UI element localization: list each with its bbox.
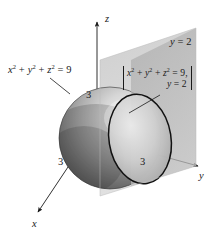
int-plus-2: + [155,67,161,78]
axis-z [94,22,101,98]
sphere-eq-equals: = [58,64,64,75]
sphere-equation-label: x2 + y2 + z2 = 9 [8,64,72,76]
int-y: y2 [145,67,152,78]
axis-tick-x-3: 3 [58,156,63,167]
plane-equation-label: y = 2 [170,36,192,48]
sphere-eq-z: z2 [47,64,55,75]
intersection-curve-label: x2 + y2 + z2 = 9, y = 2 [123,66,192,90]
plane-eq-variable: y [170,36,175,47]
axis-tick-z-3: 3 [86,89,91,100]
sphere-eq-plus-1: + [19,64,25,75]
intersection-equations: x2 + y2 + z2 = 9, y = 2 [124,67,191,90]
brace-right-icon [191,66,192,90]
sphere-eq-x: x2 [8,64,16,75]
axis-label-x: x [32,218,37,229]
leader-line-sphere [50,78,70,94]
axis-label-z: z [105,13,109,24]
sphere-eq-rhs: 9 [66,64,71,75]
sphere-plane-figure: x2 + y2 + z2 = 9 y = 2 x2 + y2 + z2 = 9,… [0,0,222,248]
int-equals: = [172,67,178,78]
int-plane-value: 2 [182,78,187,89]
intersection-line-2: y = 2 [127,78,188,89]
axis-tick-y-3: 3 [140,156,145,167]
int-x: x2 [127,67,134,78]
plane-eq-equals: = [178,36,184,47]
int-rhs: 9, [180,67,187,78]
axis-label-y: y [199,170,204,181]
plane-eq-value: 2 [186,36,191,47]
sphere-eq-y: y2 [28,64,36,75]
int-plane-variable: y [167,78,171,89]
int-plane-equals: = [174,78,180,89]
intersection-line-1: x2 + y2 + z2 = 9, [127,67,188,78]
int-z: z2 [163,67,170,78]
int-plus-1: + [137,67,143,78]
sphere-eq-plus-2: + [38,64,44,75]
